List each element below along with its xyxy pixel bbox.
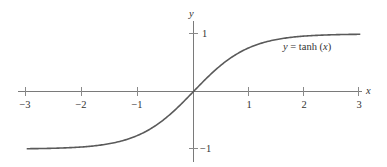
x-tick-label: 1 (246, 99, 251, 110)
curve-label: y = tanh (x) (282, 41, 332, 53)
x-tick-label: 3 (356, 99, 361, 110)
x-tick-label: −1 (131, 99, 142, 110)
x-axis-label: x (365, 85, 371, 96)
x-tick-label: 2 (301, 99, 306, 110)
y-axis-label: y (188, 8, 194, 19)
x-tick-label: −2 (75, 99, 86, 110)
x-tick-label: −3 (19, 99, 30, 110)
y-tick-label: 1 (202, 28, 207, 39)
tanh-chart: −3 −2 −1 1 2 3 1 −1 y x y = tanh (x) (0, 0, 387, 167)
y-tick-label: −1 (200, 143, 211, 154)
